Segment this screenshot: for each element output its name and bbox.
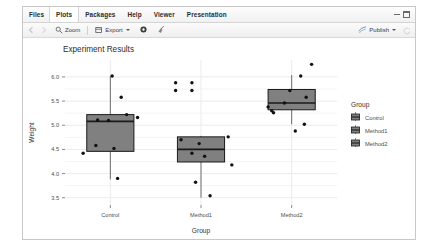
legend-item-control[interactable]: Control: [351, 112, 384, 122]
x-tick-label: Method1: [190, 212, 212, 218]
y-tick-label: 4.5: [51, 146, 59, 152]
x-tick-label: Method2: [281, 212, 303, 218]
legend-label: Method1: [365, 128, 388, 134]
data-point: [136, 116, 139, 119]
x-tick-label: Control: [101, 212, 119, 218]
data-point: [179, 138, 182, 141]
data-point: [288, 89, 291, 92]
data-point: [107, 119, 110, 122]
tab-help[interactable]: Help: [122, 7, 148, 22]
y-tick-label: 5.0: [51, 122, 59, 128]
boxplot-chart: Experiment Results3.54.04.55.05.56.0Cont…: [23, 38, 415, 239]
data-point: [208, 194, 211, 197]
data-point: [174, 89, 177, 92]
y-tick-label: 3.5: [51, 195, 59, 201]
data-point: [203, 154, 206, 157]
toolbar-separator: [87, 26, 88, 35]
zoom-label: Zoom: [65, 27, 80, 33]
box-iqr: [87, 115, 134, 152]
data-point: [190, 81, 193, 84]
x-axis-title: Group: [192, 227, 211, 235]
chevron-down-icon[interactable]: [126, 29, 130, 31]
tab-label: Plots: [56, 11, 72, 18]
legend-title: Group: [351, 101, 370, 109]
refresh-icon[interactable]: [403, 21, 411, 39]
tab-label: Help: [128, 11, 142, 18]
box-iqr: [268, 89, 315, 109]
window-controls: [394, 7, 415, 22]
data-point: [230, 163, 233, 166]
chart-title: Experiment Results: [63, 45, 134, 54]
export-label: Export: [105, 27, 122, 33]
gear-icon: [139, 25, 148, 35]
broom-icon: [157, 25, 166, 35]
data-point: [94, 144, 97, 147]
data-point: [110, 74, 113, 77]
clear-plots-button[interactable]: [155, 24, 168, 36]
legend-item-method1[interactable]: Method1: [351, 125, 388, 135]
y-tick-label: 4.0: [51, 171, 59, 177]
y-axis-title: Weight: [28, 122, 36, 143]
data-point: [272, 111, 275, 114]
forward-arrow-icon[interactable]: [40, 26, 48, 34]
data-point: [294, 129, 297, 132]
minimize-icon[interactable]: [394, 14, 400, 15]
tab-packages[interactable]: Packages: [79, 7, 121, 22]
magnifier-icon: [55, 26, 63, 35]
legend-item-method2[interactable]: Method2: [351, 138, 388, 148]
tab-files[interactable]: Files: [23, 7, 50, 22]
plot-surface[interactable]: Experiment Results3.54.04.55.05.56.0Cont…: [23, 38, 415, 239]
plots-toolbar: Zoom Export Publish: [23, 23, 415, 38]
publish-icon: [358, 26, 367, 35]
data-point: [96, 118, 99, 121]
export-icon: [95, 26, 103, 35]
y-tick-label: 6.0: [51, 74, 59, 80]
data-point: [190, 89, 193, 92]
data-point: [120, 96, 123, 99]
data-point: [194, 181, 197, 184]
chevron-down-icon[interactable]: [392, 29, 396, 31]
data-point: [190, 152, 193, 155]
data-point: [116, 177, 119, 180]
data-point: [197, 142, 200, 145]
data-point: [310, 63, 313, 66]
tab-label: Viewer: [154, 11, 175, 18]
export-button[interactable]: Export: [93, 24, 131, 36]
zoom-button[interactable]: Zoom: [53, 24, 82, 36]
tabbar-spacer: [233, 7, 394, 22]
legend-label: Control: [365, 115, 384, 121]
tab-label: Presentation: [187, 11, 227, 18]
plots-pane-window: Files Plots Packages Help Viewer Present…: [22, 6, 416, 240]
legend-label: Method2: [365, 141, 388, 147]
publish-label: Publish: [369, 27, 389, 33]
remove-plot-button[interactable]: [137, 24, 150, 36]
data-point: [81, 152, 84, 155]
data-point: [266, 105, 269, 108]
maximize-icon[interactable]: [403, 11, 410, 18]
data-point: [227, 135, 230, 138]
tab-plots[interactable]: Plots: [49, 7, 79, 22]
pane-tabbar: Files Plots Packages Help Viewer Present…: [23, 7, 415, 23]
tab-label: Packages: [85, 11, 115, 18]
tab-presentation[interactable]: Presentation: [181, 7, 233, 22]
back-arrow-icon[interactable]: [27, 26, 35, 34]
y-tick-label: 5.5: [51, 98, 59, 104]
publish-button[interactable]: Publish: [356, 24, 398, 36]
data-point: [125, 113, 128, 116]
data-point: [299, 74, 302, 77]
tab-viewer[interactable]: Viewer: [148, 7, 181, 22]
data-point: [304, 96, 307, 99]
data-point: [174, 81, 177, 84]
data-point: [112, 147, 115, 150]
data-point: [303, 123, 306, 126]
tab-label: Files: [29, 11, 44, 18]
data-point: [283, 101, 286, 104]
